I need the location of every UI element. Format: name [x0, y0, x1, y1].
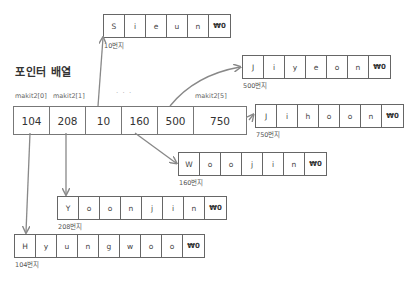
arrow-to-hyungwoo	[26, 133, 30, 232]
arrow-to-jiyeon	[170, 67, 240, 106]
pointer-arrows	[0, 0, 416, 281]
arrow-to-woojin	[135, 133, 176, 163]
arrow-to-jihoon	[249, 115, 253, 120]
arrow-to-sieun	[98, 38, 103, 106]
